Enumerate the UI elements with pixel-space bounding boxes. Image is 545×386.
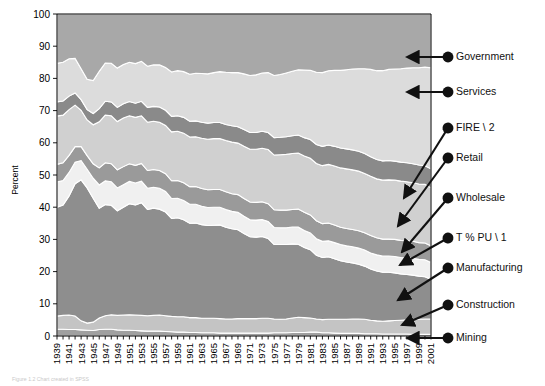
x-tick-label: 1985 [329,343,340,364]
y-tick-label: 30 [39,234,51,245]
y-tick-label: 20 [39,266,51,277]
y-tick-label: 80 [39,73,51,84]
series-callout-label: Retail [456,151,483,163]
y-tick-label: 70 [39,105,51,116]
series-callout-label: Mining [456,331,487,343]
x-tick-label: 1999 [413,343,424,364]
x-tick-label: 1995 [389,343,400,364]
x-tick-label: 1977 [281,343,292,364]
x-tick-label: 1991 [365,343,376,364]
x-tick-label: 1947 [100,343,111,364]
x-tick-label: 1987 [341,343,352,364]
figure-container: 0102030405060708090100 19391941194319451… [0,0,545,386]
series-callout-label: T % PU \ 1 [456,231,507,243]
x-tick-label: 1963 [196,343,207,364]
x-tick-label: 1993 [377,343,388,364]
x-tick-label: 1957 [160,343,171,364]
x-tick-label: 1959 [172,343,183,364]
x-tick-label: 1961 [184,343,195,364]
x-tick-label: 1955 [148,343,159,364]
y-tick-label: 10 [39,298,51,309]
x-axis-ticks: 1939194119431945194719491951195319551957… [51,336,436,364]
y-tick-label: 100 [33,9,50,20]
area-bands-group [57,14,431,336]
series-callout-label: Manufacturing [456,261,523,273]
x-tick-label: 1981 [305,343,316,364]
x-tick-label: 1973 [256,343,267,364]
series-callout-label: Construction [456,298,515,310]
y-tick-label: 0 [44,331,50,342]
x-tick-label: 1979 [293,343,304,364]
x-tick-label: 1953 [136,343,147,364]
x-tick-label: 2001 [425,343,436,364]
x-tick-label: 1949 [112,343,123,364]
x-tick-label: 1997 [401,343,412,364]
x-tick-label: 1965 [208,343,219,364]
x-tick-label: 1941 [63,343,74,364]
x-tick-label: 1969 [232,343,243,364]
x-tick-label: 1939 [51,343,62,364]
series-callout-label: Services [456,85,496,97]
x-tick-label: 1975 [269,343,280,364]
x-tick-label: 1951 [124,343,135,364]
figure-caption: Figure 1.2 Chart created in SPSS [12,376,90,382]
series-callout-label: Wholesale [456,191,505,203]
x-tick-label: 1989 [353,343,364,364]
x-tick-label: 1971 [244,343,255,364]
x-tick-label: 1943 [76,343,87,364]
y-axis-ticks: 0102030405060708090100 [33,9,57,342]
y-tick-label: 50 [39,170,51,181]
y-axis-title: Percent [10,165,20,195]
stacked-area-chart: 0102030405060708090100 19391941194319451… [0,0,545,386]
y-tick-label: 40 [39,202,51,213]
series-callout-label: Government [456,50,514,62]
x-tick-label: 1945 [88,343,99,364]
y-tick-label: 90 [39,41,51,52]
y-tick-label: 60 [39,137,51,148]
x-tick-label: 1967 [220,343,231,364]
x-tick-label: 1983 [317,343,328,364]
series-callout-label: FIRE \ 2 [456,121,495,133]
